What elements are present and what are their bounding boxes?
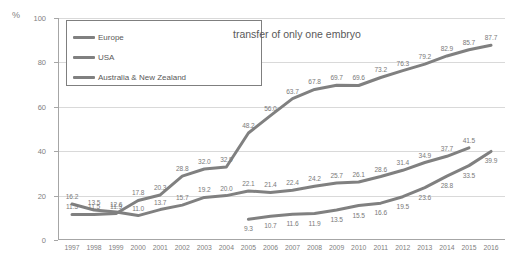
data-label: 10.7	[264, 222, 276, 229]
legend-label: Australia & New Zealand	[98, 73, 186, 82]
data-label: 23.6	[419, 193, 431, 200]
y-axis-tick-label: 0	[42, 236, 46, 245]
data-label: 33.5	[463, 171, 475, 178]
y-axis-tick-label: 20	[38, 191, 46, 200]
data-label: 56.0	[264, 104, 276, 111]
x-axis-tick-label: 2009	[329, 244, 344, 251]
x-axis-tick-label: 2014	[439, 244, 454, 251]
data-label: 11.5	[88, 203, 100, 210]
x-axis-tick-label: 2007	[285, 244, 300, 251]
data-label: 13.5	[330, 216, 342, 223]
data-label: 11.9	[309, 219, 321, 226]
data-label: 28.8	[441, 182, 453, 189]
data-label: 17.8	[132, 189, 144, 196]
data-label: 37.7	[441, 145, 453, 152]
data-label: 69.6	[352, 74, 364, 81]
x-axis-tick-label: 1999	[109, 244, 124, 251]
data-label: 39.9	[485, 157, 497, 164]
x-axis-tick-label: 2006	[263, 244, 278, 251]
chart-title: transfer of only one embryo	[233, 28, 361, 40]
data-label: 31.4	[397, 159, 409, 166]
data-label: 34.9	[419, 151, 431, 158]
x-axis-tick-labels: 1997199819992000200120022003200420052006…	[58, 244, 505, 258]
legend-item-australia-new-zealand: Australia & New Zealand	[73, 67, 261, 87]
data-label: 13.7	[154, 198, 166, 205]
legend-label: USA	[98, 53, 114, 62]
data-label: 48.2	[242, 121, 254, 128]
data-label: 24.2	[308, 175, 320, 182]
data-label: 20.3	[154, 183, 166, 190]
data-label: 82.9	[441, 44, 453, 51]
data-label: 87.7	[485, 34, 497, 41]
y-axis-tick-labels: 020406080100	[0, 18, 52, 240]
data-label: 67.8	[308, 78, 320, 85]
data-label: 11.0	[132, 204, 144, 211]
data-label: 73.2	[375, 66, 387, 73]
data-label: 16.6	[375, 209, 387, 216]
x-axis-tick-label: 2015	[461, 244, 476, 251]
legend-swatch-icon	[73, 56, 95, 59]
x-axis-tick-label: 2005	[241, 244, 256, 251]
data-label: 20.0	[220, 184, 232, 191]
legend-label: Europe	[98, 33, 124, 42]
data-label: 32.0	[198, 157, 210, 164]
chart-container: % 020406080100 16.213.512.611.013.715.71…	[0, 0, 523, 267]
data-label: 28.6	[375, 165, 387, 172]
data-label: 11.6	[287, 220, 299, 227]
data-label: 69.7	[330, 74, 342, 81]
data-label: 19.2	[198, 186, 210, 193]
x-axis-tick-label: 2016	[483, 244, 498, 251]
data-label: 25.7	[330, 171, 342, 178]
data-label: 26.1	[352, 171, 364, 178]
y-axis-tick	[54, 240, 58, 241]
data-label: 9.3	[244, 225, 253, 232]
x-axis-tick-label: 2003	[197, 244, 212, 251]
y-axis-tick-label: 80	[38, 58, 46, 67]
data-label: 79.2	[419, 53, 431, 60]
y-axis-tick-label: 40	[38, 147, 46, 156]
x-axis-tick-label: 2004	[219, 244, 234, 251]
x-axis-tick-label: 2000	[131, 244, 146, 251]
legend-swatch-icon	[73, 36, 95, 39]
data-label: 15.5	[352, 211, 364, 218]
data-label: 22.4	[286, 179, 298, 186]
data-label: 21.4	[264, 181, 276, 188]
x-axis-tick-label: 2002	[175, 244, 190, 251]
data-label: 76.3	[397, 59, 409, 66]
data-label: 16.2	[66, 193, 78, 200]
y-axis-tick-label: 100	[33, 14, 46, 23]
data-label: 15.7	[176, 194, 188, 201]
data-label: 11.5	[66, 203, 78, 210]
x-axis-tick-label: 2012	[395, 244, 410, 251]
data-label: 28.8	[176, 165, 188, 172]
data-label: 11.9	[110, 202, 122, 209]
x-axis-tick-label: 1998	[86, 244, 101, 251]
x-axis-tick-label: 1997	[64, 244, 79, 251]
x-axis-tick-label: 2010	[351, 244, 366, 251]
legend-swatch-icon	[73, 76, 95, 79]
series-line	[248, 151, 491, 219]
x-axis-tick-label: 2011	[373, 244, 388, 251]
x-axis-tick-label: 2001	[153, 244, 168, 251]
data-label: 32.9	[220, 155, 232, 162]
x-axis-tick-label: 2013	[417, 244, 432, 251]
x-axis-tick-label: 2008	[307, 244, 322, 251]
y-axis-tick-label: 60	[38, 102, 46, 111]
data-label: 63.7	[286, 87, 298, 94]
data-label: 41.5	[463, 136, 475, 143]
legend-item-usa: USA	[73, 47, 261, 67]
data-label: 22.1	[242, 179, 254, 186]
data-label: 19.5	[397, 202, 409, 209]
data-label: 85.7	[463, 38, 475, 45]
